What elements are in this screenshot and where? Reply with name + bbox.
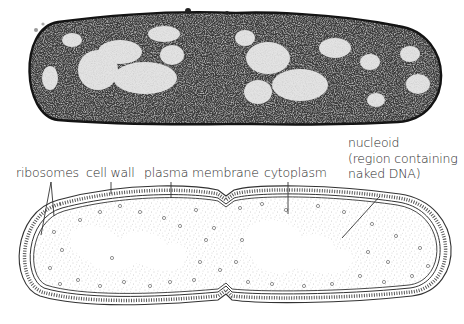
label-nucleoid: nucleoid (region containing naked DNA) [348, 135, 458, 182]
label-plasma-membrane: plasma membrane [144, 166, 259, 180]
diagram-cell [19, 186, 451, 305]
bacterium-figure: ribosomes cell wall plasma membrane cyto… [0, 0, 464, 324]
label-cytoplasm: cytoplasm [264, 166, 327, 180]
label-cell-wall: cell wall [86, 166, 135, 180]
micrograph-cell [0, 0, 464, 140]
label-ribosomes: ribosomes [16, 166, 79, 180]
